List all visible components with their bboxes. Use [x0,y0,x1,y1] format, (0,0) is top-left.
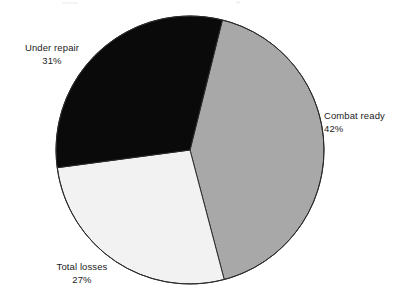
pie-label-under-repair-name: Under repair [6,42,98,55]
pie-chart-figure: Under repair 31% Combat ready 42% Total … [0,0,414,302]
pie-label-total-losses: Total losses 27% [36,261,128,286]
pie-label-combat-ready-percent: 42% [324,123,414,136]
pie-label-total-losses-percent: 27% [36,274,128,287]
pie-label-total-losses-name: Total losses [36,261,128,274]
pie-label-combat-ready-name: Combat ready [324,110,414,123]
pie-label-combat-ready: Combat ready 42% [324,110,414,135]
pie-label-under-repair-percent: 31% [6,55,98,68]
chart-plot-area: Under repair 31% Combat ready 42% Total … [0,0,414,302]
pie-label-under-repair: Under repair 31% [6,42,98,67]
